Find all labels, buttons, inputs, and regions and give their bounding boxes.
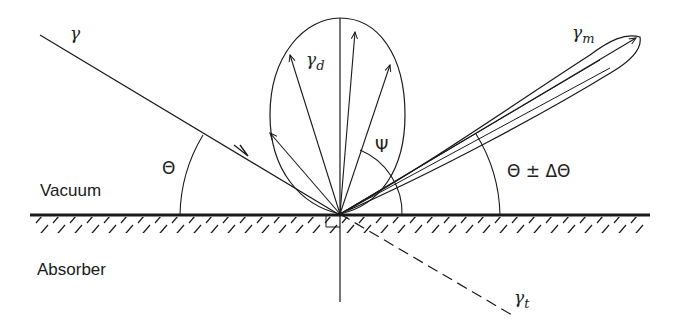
specular-ray-label: γm bbox=[572, 22, 595, 46]
specular-arrow bbox=[340, 38, 636, 214]
diffuse-arrows bbox=[270, 32, 390, 214]
absorber-label: Absorber bbox=[37, 260, 106, 279]
diffuse-ray-label: γd bbox=[306, 49, 325, 73]
incident-ray-label: γ bbox=[70, 23, 81, 43]
incidence-angle-label: Θ bbox=[162, 158, 175, 178]
scatter-angle-label: Ψ bbox=[375, 136, 388, 156]
incident-arrowhead-icon bbox=[234, 145, 248, 156]
incidence-angle-arc bbox=[180, 135, 203, 215]
reflection-angle-label: Θ ± ΔΘ bbox=[507, 161, 570, 181]
transmitted-ray-label: γt bbox=[514, 287, 530, 311]
surface-scattering-diagram: γ γd γm γt Θ Ψ Θ ± ΔΘ Vacuum Absorber bbox=[0, 0, 678, 332]
vacuum-label: Vacuum bbox=[40, 181, 101, 200]
scatter-angle-arc bbox=[360, 150, 402, 215]
diffuse-lobe bbox=[270, 18, 405, 214]
